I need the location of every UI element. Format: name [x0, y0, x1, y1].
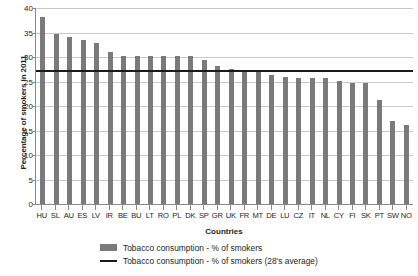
bar-cell	[157, 8, 170, 204]
tobacco-consumption-bar-chart: Percentage of smokers in 2011 0510152025…	[0, 0, 418, 276]
bar	[296, 78, 301, 204]
bar-cell	[130, 8, 143, 204]
x-axis-tick-label: RO	[157, 211, 171, 220]
bar	[202, 60, 207, 204]
bar	[67, 37, 72, 204]
x-axis-tick-mark	[238, 205, 252, 210]
bar	[404, 125, 409, 204]
bar-cell	[265, 8, 278, 204]
x-axis-tick-label: PT	[373, 211, 387, 220]
legend-line-swatch-icon	[100, 260, 117, 262]
bar-cell	[332, 8, 345, 204]
bar-cell	[211, 8, 224, 204]
y-axis-tick-label: 10	[1, 151, 33, 160]
x-axis-tick-mark	[386, 205, 400, 210]
bar	[135, 56, 140, 204]
bar-cell	[278, 8, 291, 204]
bar-cell	[400, 8, 413, 204]
x-axis-tick-label: LT	[143, 211, 157, 220]
x-axis-tick-mark	[62, 205, 76, 210]
x-axis-tick-mark	[305, 205, 319, 210]
x-axis-tick-mark	[346, 205, 360, 210]
bar-cell	[198, 8, 211, 204]
x-axis-tick-label: DE	[265, 211, 279, 220]
x-axis-tick-label: GR	[211, 211, 225, 220]
x-axis-tick-mark	[278, 205, 292, 210]
x-axis-tick-mark	[373, 205, 387, 210]
bar-cell	[184, 8, 197, 204]
y-axis-tick-label: 35	[1, 28, 33, 37]
bar	[215, 66, 220, 204]
y-axis-tick-label: 20	[1, 102, 33, 111]
bar	[363, 83, 368, 204]
chart-legend: Tobacco consumption - % of smokers Tobac…	[0, 241, 418, 267]
bar-cell	[103, 8, 116, 204]
bar	[81, 40, 86, 204]
bar	[390, 121, 395, 204]
x-axis-tick-label: DK	[184, 211, 198, 220]
x-axis-tick-label: NO	[400, 211, 414, 220]
x-axis-tick-mark	[35, 205, 49, 210]
average-reference-line	[36, 70, 413, 72]
x-axis-tick-mark	[143, 205, 157, 210]
x-axis-tick-label: AU	[62, 211, 76, 220]
x-axis-tick-label: MT	[251, 211, 265, 220]
x-axis-tick-marks	[35, 205, 413, 210]
y-axis-tick-label: 30	[1, 53, 33, 62]
bar-cell	[144, 8, 157, 204]
x-axis-tick-label: ES	[76, 211, 90, 220]
bar-cell	[319, 8, 332, 204]
bar-cell	[63, 8, 76, 204]
bar-cell	[225, 8, 238, 204]
bar	[175, 56, 180, 204]
bar	[323, 78, 328, 204]
bar	[54, 34, 59, 204]
bar-series	[36, 8, 413, 204]
x-axis-tick-mark	[130, 205, 144, 210]
x-axis-tick-label: FR	[238, 211, 252, 220]
legend-item-average-line: Tobacco consumption - % of smokers (28's…	[0, 254, 418, 267]
bar-cell	[117, 8, 130, 204]
bar	[94, 43, 99, 204]
bar-cell	[346, 8, 359, 204]
bar-cell	[373, 8, 386, 204]
x-axis-tick-mark	[197, 205, 211, 210]
x-axis-tick-label: UK	[224, 211, 238, 220]
bar	[350, 83, 355, 204]
bar-cell	[90, 8, 103, 204]
x-axis-tick-mark	[400, 205, 414, 210]
x-axis-tick-label: SK	[359, 211, 373, 220]
x-axis-tick-mark	[49, 205, 63, 210]
bar	[337, 81, 342, 204]
bar	[310, 78, 315, 204]
legend-item-label: Tobacco consumption - % of smokers	[123, 243, 262, 253]
x-axis-tick-label: CY	[332, 211, 346, 220]
x-axis-tick-label: IR	[103, 211, 117, 220]
y-axis-tick-label: 40	[1, 4, 33, 13]
x-axis-tick-mark	[251, 205, 265, 210]
x-axis-tick-label: PL	[170, 211, 184, 220]
bar-cell	[238, 8, 251, 204]
bar-cell	[386, 8, 399, 204]
bar	[40, 17, 45, 204]
x-axis-tick-mark	[170, 205, 184, 210]
x-axis-tick-label: BE	[116, 211, 130, 220]
bar	[161, 56, 166, 204]
bar	[188, 56, 193, 204]
x-axis-tick-mark	[184, 205, 198, 210]
x-axis-tick-label: SL	[49, 211, 63, 220]
legend-item-label: Tobacco consumption - % of smokers (28's…	[123, 256, 318, 266]
x-axis-tick-labels: HUSLAUESLVIRBEBULTROPLDKSPGRUKFRMTDELUCZ…	[35, 211, 413, 220]
x-axis-tick-mark	[224, 205, 238, 210]
x-axis-tick-label: SP	[197, 211, 211, 220]
bar	[377, 100, 382, 204]
y-axis-tick-label: 5	[1, 175, 33, 184]
bar-cell	[36, 8, 49, 204]
bar	[229, 69, 234, 204]
bar	[242, 70, 247, 204]
x-axis-tick-label: BU	[130, 211, 144, 220]
bar	[148, 56, 153, 204]
bar-cell	[305, 8, 318, 204]
y-axis-tick-label: 15	[1, 126, 33, 135]
bar-cell	[76, 8, 89, 204]
